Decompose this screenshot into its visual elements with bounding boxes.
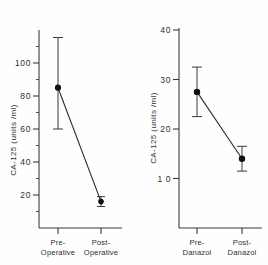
left-category-2-line1: Post-	[92, 238, 111, 247]
right-ylabel-10: 1 0	[157, 174, 171, 184]
right-series-line	[197, 92, 242, 159]
chart-panel-right: 40 30 20 1 0 Pre- Danazol Post	[134, 0, 268, 265]
left-ylabel-80: 80	[20, 91, 31, 101]
left-plot-area: 100 80 60 40 20 Pre- Operative	[0, 0, 134, 265]
left-datapoint-post-operative	[98, 199, 104, 205]
right-category-1-line1: Pre-	[190, 238, 205, 247]
right-category-2-line1: Post-	[233, 238, 252, 247]
left-series-line	[58, 88, 101, 202]
right-datapoint-post-danazol	[239, 156, 245, 162]
figure-container: 100 80 60 40 20 Pre- Operative	[0, 0, 268, 265]
chart-panel-left: 100 80 60 40 20 Pre- Operative	[0, 0, 134, 265]
left-datapoint-pre-operative	[55, 85, 61, 91]
left-y-axis-title: CA-125 (units /ml)	[9, 104, 18, 176]
left-ylabel-100: 100	[15, 58, 31, 68]
left-category-2-line2: Operative	[84, 248, 118, 257]
left-ylabel-60: 60	[20, 124, 31, 134]
right-category-2-line2: Danazol	[228, 248, 257, 257]
left-category-1-line2: Operative	[41, 248, 75, 257]
right-plot-area: 40 30 20 1 0 Pre- Danazol Post	[134, 0, 268, 265]
right-ylabel-20: 20	[160, 124, 171, 134]
right-datapoint-pre-danazol	[194, 89, 200, 95]
left-category-1-line1: Pre-	[51, 238, 66, 247]
right-ylabel-30: 30	[160, 75, 171, 85]
left-ylabel-40: 40	[20, 157, 31, 167]
left-ylabel-20: 20	[20, 190, 31, 200]
right-y-axis-title: CA-125 (units /ml)	[149, 92, 158, 164]
right-category-1-line2: Danazol	[183, 248, 212, 257]
right-ylabel-40: 40	[160, 25, 171, 35]
